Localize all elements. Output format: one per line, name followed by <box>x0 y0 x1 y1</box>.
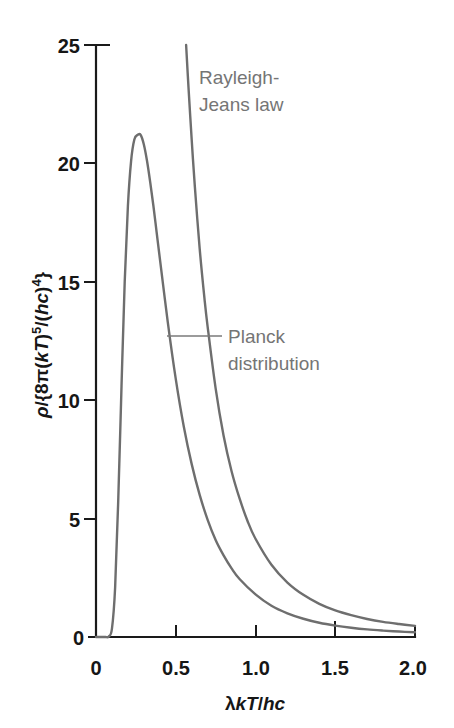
ytick-label-15: 15 <box>58 272 80 294</box>
ylabel-mid: /( <box>31 314 52 326</box>
ylabel-sup5: 5 <box>29 327 44 334</box>
planck-distribution-curve <box>96 134 415 637</box>
xlabel-hc: hc <box>263 693 286 714</box>
rayleigh-jeans-annotation: Rayleigh- Jeans law <box>199 67 284 115</box>
svg-text:λkT/hc: λkT/hc <box>225 693 286 714</box>
x-tick-labels: 0 0.5 1.0 1.5 2.0 <box>90 657 426 679</box>
rayleigh-jeans-label-line2: Jeans law <box>199 94 284 115</box>
ylabel-open: /{8π( <box>31 362 52 407</box>
ylabel-hc: hc <box>31 292 52 315</box>
y-axis-ticks <box>84 45 96 637</box>
xtick-label-1.0: 1.0 <box>242 657 270 679</box>
ylabel-kT: kT <box>31 339 52 363</box>
xtick-label-2.0: 2.0 <box>399 657 427 679</box>
planck-annotation: Planck distribution <box>228 326 320 374</box>
planck-label-line1: Planck <box>228 326 286 347</box>
ytick-label-0: 0 <box>73 627 84 649</box>
xtick-label-0: 0 <box>90 657 101 679</box>
xlabel-lambda: λ <box>225 693 236 714</box>
ytick-label-5: 5 <box>69 509 80 531</box>
svg-text:ρ/{8π(kT)5/(hc)4}: ρ/{8π(kT)5/(hc)4} <box>29 271 52 419</box>
xtick-label-1.5: 1.5 <box>321 657 349 679</box>
y-tick-labels: 25 20 15 10 5 0 <box>58 35 84 649</box>
ylabel-brace: } <box>31 271 52 279</box>
planck-label-line2: distribution <box>228 353 320 374</box>
rayleigh-jeans-label-line1: Rayleigh- <box>199 67 279 88</box>
y-axis-title: ρ/{8π(kT)5/(hc)4} <box>29 271 52 419</box>
ytick-label-25: 25 <box>58 35 80 57</box>
xtick-label-0.5: 0.5 <box>162 657 190 679</box>
ylabel-rho: ρ <box>31 407 52 420</box>
ytick-label-10: 10 <box>58 390 80 412</box>
planck-distribution-chart: 25 20 15 10 5 0 0 0.5 1.0 1.5 2.0 Raylei… <box>0 0 454 728</box>
blackbody-radiation-figure: 25 20 15 10 5 0 0 0.5 1.0 1.5 2.0 Raylei… <box>0 0 454 728</box>
xlabel-kT: kT <box>235 693 259 714</box>
x-axis-title: λkT/hc <box>225 693 286 714</box>
ytick-label-20: 20 <box>58 153 80 175</box>
